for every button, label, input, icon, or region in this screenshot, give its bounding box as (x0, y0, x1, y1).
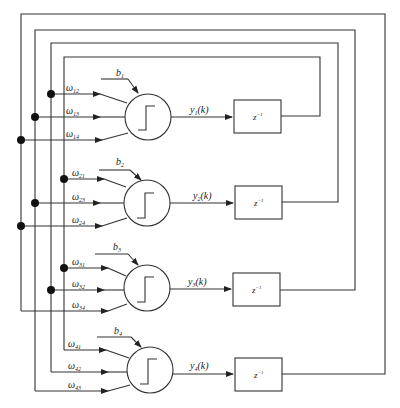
weight-label: ω31 (72, 256, 85, 268)
bias-label: b4 (114, 325, 122, 337)
bias-label: b2 (116, 156, 124, 168)
weight-label: ω24 (72, 214, 85, 226)
activation-node (127, 347, 173, 393)
junction-dot (47, 286, 55, 294)
feedback-loop-3 (35, 30, 355, 391)
output-label: y2(k) (192, 190, 212, 202)
weight-label: ω23 (72, 191, 85, 203)
junction-dot (60, 264, 68, 272)
hopfield-network-diagram: ω12 ω13 ω14 b1 y1(k) z−1 ω21 ω23 ω24 b2 … (0, 0, 400, 408)
junction-dot (17, 222, 25, 230)
weight-label: ω14 (66, 128, 79, 140)
activation-node (124, 265, 170, 311)
bias-label: b1 (116, 67, 124, 79)
activation-node (124, 180, 170, 226)
weight-label: ω41 (68, 338, 81, 350)
bias-label: b3 (113, 241, 121, 253)
output-label: y3(k) (187, 276, 207, 288)
activation-node (125, 94, 171, 140)
weight-label: ω21 (72, 167, 85, 179)
weight-label: ω42 (68, 360, 81, 372)
junction-dot (31, 113, 39, 121)
weight-label: ω12 (66, 82, 79, 94)
weight-label: ω34 (72, 299, 85, 311)
neuron-4: ω41 ω42 ω43 b4 y4(k) z−1 (35, 325, 282, 393)
weight-label: ω13 (66, 105, 79, 117)
feedback-loop-2 (51, 43, 338, 372)
output-label: y1(k) (189, 104, 209, 116)
junction-dot (31, 199, 39, 207)
junction-dot (47, 90, 55, 98)
neuron-1: ω12 ω13 ω14 b1 y1(k) z−1 (17, 67, 281, 144)
junction-dot (60, 175, 68, 183)
weight-label: ω32 (72, 278, 85, 290)
junction-dot (17, 136, 25, 144)
neuron-3: ω31 ω32 ω34 b3 y3(k) z−1 (21, 241, 280, 311)
weight-label: ω43 (68, 379, 81, 391)
neuron-2: ω21 ω23 ω24 b2 y2(k) z−1 (17, 156, 282, 230)
output-label: y4(k) (189, 360, 209, 372)
